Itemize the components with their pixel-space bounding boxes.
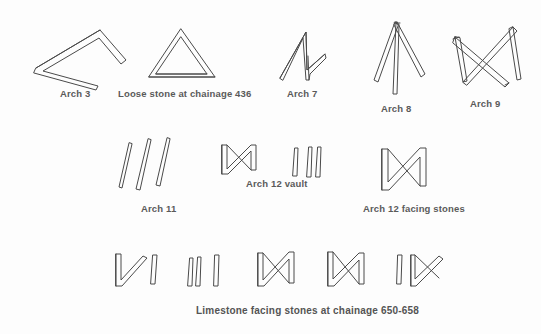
label-arch-8: Arch 8 — [381, 103, 411, 114]
label-arch-11: Arch 11 — [141, 203, 176, 214]
mark-glyph-limestone-5 — [395, 252, 449, 292]
label-arch-12-facing-stones: Arch 12 facing stones — [363, 203, 465, 214]
label-loose-stone-436: Loose stone at chainage 436 — [118, 88, 251, 99]
mark-glyph-arch-7 — [276, 26, 338, 82]
mark-glyph-limestone-3 — [255, 250, 303, 292]
label-arch-12-vault: Arch 12 vault — [246, 178, 308, 189]
mark-glyph-limestone-4 — [325, 250, 373, 292]
figure-canvas: Arch 3 Loose stone at chainage 436 Arch … — [0, 0, 541, 334]
mark-glyph-arch-12-vault — [219, 143, 263, 177]
mark-glyph-arch-11 — [117, 137, 179, 193]
mark-glyph-loose-stone-436 — [147, 26, 219, 84]
mark-glyph-limestone-1 — [113, 252, 165, 292]
mark-glyph-arch-12-vault-strokes — [290, 146, 326, 180]
caption-limestone-facing-stones: Limestone facing stones at chainage 650-… — [196, 305, 419, 316]
mark-glyph-arch-8 — [366, 20, 434, 98]
label-arch-7: Arch 7 — [287, 88, 317, 99]
label-arch-9: Arch 9 — [470, 98, 500, 109]
mark-glyph-arch-3 — [22, 16, 134, 88]
label-arch-3: Arch 3 — [60, 88, 90, 99]
mark-glyph-limestone-2 — [186, 254, 228, 292]
mark-glyph-arch-12-facing-stones — [378, 146, 434, 196]
mark-glyph-arch-9 — [451, 21, 529, 89]
